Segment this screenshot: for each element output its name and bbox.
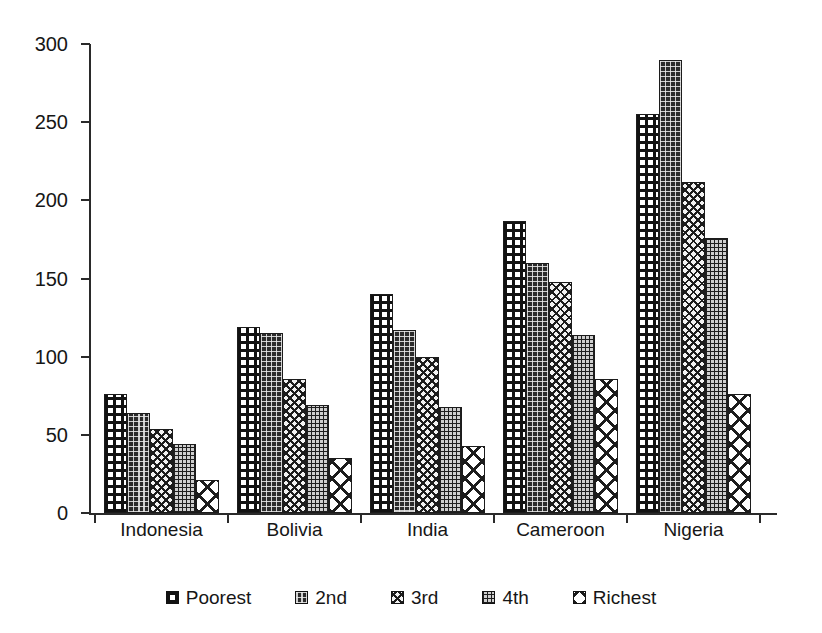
bar-nigeria-richest (728, 394, 751, 513)
bar-india-poorest (370, 294, 393, 513)
bar-cameroon-4th (572, 335, 595, 513)
y-tick-mark (81, 512, 90, 514)
legend-swatch-icon (482, 591, 495, 604)
bar-nigeria-2nd (659, 60, 682, 513)
bar-group-bars (104, 44, 219, 513)
y-tick-mark (81, 199, 90, 201)
x-axis-label-indonesia: Indonesia (84, 519, 239, 541)
y-tick-label: 50 (0, 425, 68, 445)
bar-indonesia-richest (196, 480, 219, 513)
legend-label: 4th (502, 588, 528, 607)
bar-group (370, 44, 485, 513)
y-tick-mark (81, 434, 90, 436)
bar-indonesia-poorest (104, 394, 127, 513)
legend-swatch-icon (391, 591, 404, 604)
bar-indonesia-3rd (150, 429, 173, 513)
y-tick-mark (81, 278, 90, 280)
bar-group-bars (636, 44, 751, 513)
legend-label: 2nd (315, 588, 347, 607)
legend-label: Richest (593, 588, 656, 607)
x-axis-label-nigeria: Nigeria (616, 519, 771, 541)
bar-bolivia-2nd (260, 333, 283, 513)
legend-item-poorest: Poorest (166, 588, 251, 607)
y-tick-label: 200 (0, 190, 68, 210)
bar-nigeria-poorest (636, 114, 659, 513)
bar-chart: 050100150200250300 Poorest2nd3rd4thRiche… (0, 0, 822, 633)
bar-cameroon-2nd (526, 263, 549, 513)
legend-item-3rd: 3rd (391, 588, 438, 607)
bar-group (104, 44, 219, 513)
bar-india-richest (462, 446, 485, 513)
legend-swatch-icon (166, 591, 179, 604)
legend-item-2nd: 2nd (295, 588, 347, 607)
x-axis-label-india: India (350, 519, 505, 541)
bar-nigeria-4th (705, 238, 728, 513)
bar-group (503, 44, 618, 513)
bar-india-3rd (416, 357, 439, 513)
x-axis-label-cameroon: Cameroon (483, 519, 638, 541)
bar-cameroon-3rd (549, 282, 572, 513)
bar-nigeria-3rd (682, 182, 705, 513)
bar-bolivia-4th (306, 405, 329, 513)
bar-bolivia-poorest (237, 327, 260, 513)
bar-group-bars (237, 44, 352, 513)
legend-label: Poorest (186, 588, 251, 607)
legend-item-richest: Richest (573, 588, 656, 607)
y-tick-mark (81, 356, 90, 358)
y-tick-label: 300 (0, 34, 68, 54)
bar-bolivia-3rd (283, 379, 306, 513)
y-tick-label: 150 (0, 269, 68, 289)
plot-area (89, 44, 775, 513)
y-tick-mark (81, 121, 90, 123)
bar-cameroon-poorest (503, 221, 526, 513)
bar-indonesia-4th (173, 444, 196, 513)
chart-legend: Poorest2nd3rd4thRichest (0, 588, 822, 607)
bar-group-bars (503, 44, 618, 513)
bar-cameroon-richest (595, 379, 618, 513)
bar-indonesia-2nd (127, 413, 150, 513)
y-tick-mark (81, 43, 90, 45)
bar-india-2nd (393, 330, 416, 513)
y-tick-label: 100 (0, 347, 68, 367)
legend-swatch-icon (573, 591, 586, 604)
x-axis-label-bolivia: Bolivia (217, 519, 372, 541)
x-axis-line (89, 513, 777, 515)
legend-item-4th: 4th (482, 588, 528, 607)
y-tick-label: 0 (0, 503, 68, 523)
y-tick-label: 250 (0, 112, 68, 132)
bar-india-4th (439, 407, 462, 513)
bar-group (237, 44, 352, 513)
legend-label: 3rd (411, 588, 438, 607)
bar-bolivia-richest (329, 458, 352, 513)
legend-swatch-icon (295, 591, 308, 604)
bar-group-bars (370, 44, 485, 513)
bar-group (636, 44, 751, 513)
